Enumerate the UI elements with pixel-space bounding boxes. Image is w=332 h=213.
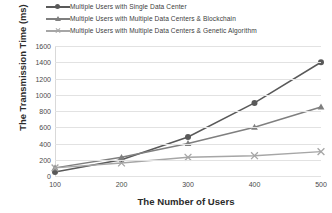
gridline <box>55 46 321 47</box>
legend-swatch-genetic-algorithm <box>46 25 70 36</box>
y-axis-tick-label: 200 <box>39 156 51 163</box>
gridline <box>55 111 321 112</box>
x-axis-tick-label: 100 <box>49 181 61 188</box>
y-axis-tick-label: 800 <box>39 108 51 115</box>
gridline <box>55 144 321 145</box>
legend-item-single-data-center[interactable]: Multiple Users with Single Data Center <box>46 1 332 12</box>
plot-area: 0200400600800100012001400160010020030040… <box>55 46 321 176</box>
data-point-triangle <box>318 104 325 110</box>
legend-label-single-data-center: Multiple Users with Single Data Center <box>70 3 187 10</box>
legend-label-blockchain: Multiple Users with Multiple Data Center… <box>70 15 236 22</box>
legend-swatch-single-data-center <box>46 1 70 12</box>
data-point-circle <box>252 100 258 106</box>
y-axis-tick-label: 1000 <box>35 91 51 98</box>
x-axis-tick-label: 200 <box>116 181 128 188</box>
gridline <box>55 62 321 63</box>
legend-item-blockchain[interactable]: Multiple Users with Multiple Data Center… <box>46 13 332 24</box>
legend-label-genetic-algorithm: Multiple Users with Multiple Data Center… <box>70 27 257 34</box>
x-axis-tick-label: 400 <box>249 181 261 188</box>
y-axis-tick-label: 600 <box>39 124 51 131</box>
y-axis-tick-label: 1200 <box>35 75 51 82</box>
chart-legend: Multiple Users with Single Data Center M… <box>46 1 332 37</box>
gridline <box>55 95 321 96</box>
y-axis-tick-label: 0 <box>47 173 51 180</box>
legend-item-genetic-algorithm[interactable]: Multiple Users with Multiple Data Center… <box>46 25 332 36</box>
data-point-circle <box>185 134 191 140</box>
x-axis-title: The Number of Users <box>40 196 332 207</box>
circle-marker-icon <box>55 4 60 9</box>
triangle-marker-icon <box>55 16 61 21</box>
y-axis-title: The Transmission Time (ms) <box>17 0 28 138</box>
line-chart: Multiple Users with Single Data Center M… <box>0 0 332 213</box>
y-axis-tick-label: 1600 <box>35 43 51 50</box>
y-axis-tick-label: 400 <box>39 140 51 147</box>
gridline <box>55 127 321 128</box>
y-axis-tick-label: 1400 <box>35 59 51 66</box>
legend-swatch-blockchain <box>46 13 70 24</box>
x-axis-tick-label: 500 <box>315 181 327 188</box>
x-axis-tick-label: 300 <box>182 181 194 188</box>
gridline <box>55 176 321 177</box>
gridline <box>55 160 321 161</box>
gridline <box>55 79 321 80</box>
